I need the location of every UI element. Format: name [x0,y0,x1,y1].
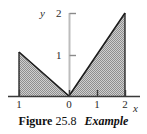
x-tick-label-2: 2 [119,99,131,110]
caption-label: Figure [19,114,53,128]
x-tick-label-1: 1 [91,99,103,110]
plot-svg [0,0,147,112]
y-tick-label-2: 2 [56,8,62,19]
y-tick-label-1: 1 [56,50,62,61]
x-axis-label: x [133,103,138,114]
y-axis-label: y [40,8,45,19]
figure-caption: Figure 25.8 Example [0,114,147,128]
plot-area: y x 2 1 1 0 1 2 [0,0,147,112]
x-tick-label-0: 0 [63,99,75,110]
caption-title: Example [84,114,128,128]
x-tick-label-neg1: 1 [13,99,25,110]
figure-container: y x 2 1 1 0 1 2 Figure 25.8 Example [0,0,147,134]
caption-number: 25.8 [55,114,76,128]
